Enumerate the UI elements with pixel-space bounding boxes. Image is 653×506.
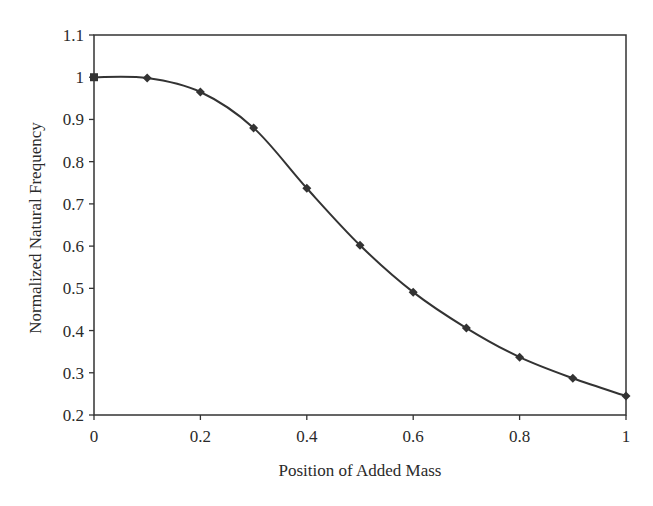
y-tick-label: 0.7 — [63, 195, 85, 214]
x-axis-label: Position of Added Mass — [279, 461, 442, 480]
y-tick-label: 0.4 — [63, 322, 85, 341]
plot-frame — [94, 35, 626, 415]
line-chart: 1.110.90.80.70.60.50.40.30.2 00.20.40.60… — [0, 0, 653, 506]
x-tick-label: 0.8 — [509, 427, 530, 446]
y-tick-label: 0.2 — [63, 406, 84, 425]
y-tick-label: 0.6 — [63, 237, 84, 256]
data-point-diamond-marker — [622, 392, 631, 401]
x-tick-label: 1 — [622, 427, 631, 446]
data-point-diamond-marker — [515, 353, 524, 362]
data-point-diamond-marker — [143, 74, 152, 83]
data-point-diamond-marker — [196, 88, 205, 97]
y-axis-label: Normalized Natural Frequency — [26, 122, 45, 334]
x-tick-label: 0.4 — [296, 427, 318, 446]
y-tick-label: 1.1 — [63, 26, 84, 45]
data-point-diamond-marker — [568, 374, 577, 383]
y-tick-label: 0.5 — [63, 279, 84, 298]
x-tick-label: 0.2 — [190, 427, 211, 446]
data-point-diamond-marker — [462, 324, 471, 333]
y-tick-label: 0.8 — [63, 153, 84, 172]
x-tick-label: 0 — [90, 427, 99, 446]
data-series — [90, 73, 631, 400]
y-tick-label: 1 — [76, 68, 85, 87]
series-line — [94, 77, 626, 396]
y-tick-label: 0.3 — [63, 364, 84, 383]
y-tick-label: 0.9 — [63, 110, 84, 129]
y-axis-ticks: 1.110.90.80.70.60.50.40.30.2 — [63, 26, 94, 425]
x-tick-label: 0.6 — [403, 427, 424, 446]
plot-border — [94, 35, 626, 415]
x-axis-ticks: 00.20.40.60.81 — [90, 415, 631, 446]
data-point-square-marker — [90, 73, 98, 81]
